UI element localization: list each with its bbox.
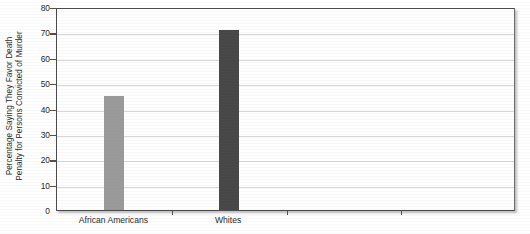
y-axis-tick-label: 0 <box>24 206 50 216</box>
y-axis-tick-label: 40 <box>24 105 50 115</box>
y-axis-tick-mark <box>50 186 56 187</box>
y-axis-tick-marks <box>56 8 515 211</box>
y-axis-tick-mark <box>50 135 56 136</box>
y-axis-tick-mark <box>50 84 56 85</box>
y-axis-tick-labels: 01020304050607080 <box>22 0 50 212</box>
y-axis-tick-mark <box>50 59 56 60</box>
y-axis-tick-label: 20 <box>24 155 50 165</box>
bar-chart: Percentage Saying They Favor Death Penal… <box>0 0 530 234</box>
y-axis-tick-mark <box>50 33 56 34</box>
y-axis-tick-label: 50 <box>24 79 50 89</box>
x-axis-tick-label: African Americans <box>79 215 148 225</box>
y-axis-tick-label: 80 <box>24 3 50 13</box>
y-axis-tick-mark <box>50 110 56 111</box>
y-axis-tick-label: 70 <box>24 28 50 38</box>
y-axis-tick-label: 30 <box>24 130 50 140</box>
y-axis-tick-label: 60 <box>24 54 50 64</box>
y-axis-tick-label: 10 <box>24 181 50 191</box>
y-axis-tick-mark <box>50 8 56 9</box>
y-axis-title-line-1: Percentage Saying They Favor Death <box>5 37 15 176</box>
x-axis-tick-label: Whites <box>215 215 241 225</box>
y-axis-tick-mark <box>50 160 56 161</box>
